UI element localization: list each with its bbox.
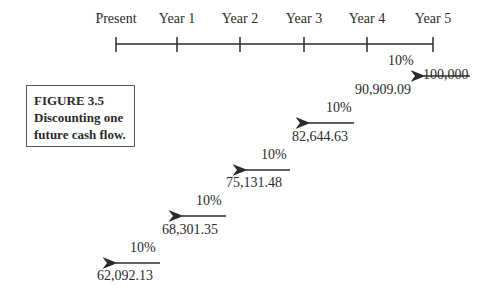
caption-line-3: future cash flow. <box>34 126 134 143</box>
caption-line-2: Discounting one <box>34 109 134 126</box>
present-value-year-3: 82,644.63 <box>292 129 348 145</box>
timeline-label-year-2: Year 2 <box>222 11 258 27</box>
rate-label-1: 10% <box>388 53 414 69</box>
figure-caption: FIGURE 3.5 Discounting one future cash f… <box>26 85 135 147</box>
caption-title: FIGURE 3.5 <box>34 92 134 109</box>
timeline-label-year-5: Year 5 <box>415 11 451 27</box>
timeline-label-year-4: Year 4 <box>349 11 385 27</box>
future-value: 100,000 <box>423 67 469 83</box>
rate-label-4: 10% <box>196 193 222 209</box>
rate-label-5: 10% <box>130 240 156 256</box>
timeline-label-year-3: Year 3 <box>286 11 322 27</box>
present-value-year-0: 62,092.13 <box>97 268 153 284</box>
rate-label-3: 10% <box>261 147 287 163</box>
timeline-label-present: Present <box>95 11 136 27</box>
present-value-year-1: 68,301.35 <box>162 222 218 238</box>
present-value-year-2: 75,131.48 <box>226 175 282 191</box>
rate-label-2: 10% <box>326 100 352 116</box>
diagram-lines <box>0 0 488 295</box>
present-value-year-4: 90,909.09 <box>355 82 411 98</box>
timeline-label-year-1: Year 1 <box>159 11 195 27</box>
